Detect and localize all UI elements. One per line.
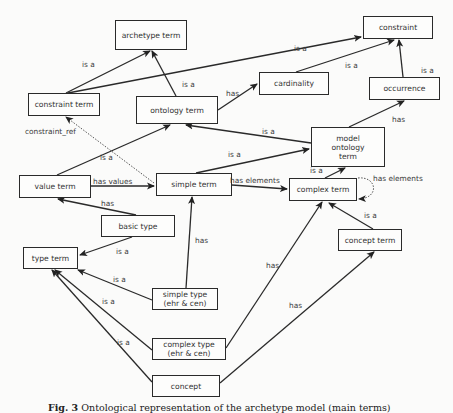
node-basic-type: basic type: [101, 215, 175, 237]
caption-label: Fig. 3: [48, 402, 78, 413]
edge-constraint-term-to-archetype-term: [66, 51, 150, 93]
node-complex-type: complex type (ehr & cen): [152, 338, 226, 360]
edge-label: is a: [102, 297, 115, 306]
edge-concept-to-type-term: [52, 270, 152, 382]
node-ontology-term: ontology term: [136, 96, 218, 124]
edge-simple-term-to-model-ontology-term: [196, 149, 309, 173]
node-value-term: value term: [19, 175, 91, 198]
edge-label: is a: [262, 127, 275, 136]
edge-label: has: [195, 236, 208, 245]
edge-label: has: [101, 199, 114, 208]
caption-text: Ontological representation of the archet…: [81, 402, 390, 413]
edge-occurrence-to-constraint: [399, 40, 403, 77]
edge-label: is a: [228, 150, 241, 159]
node-cardinality: cardinality: [259, 72, 329, 95]
edge-complex-term-to-model-ontology-term: [325, 168, 345, 178]
edge-label: is a: [310, 166, 323, 175]
edge-model-ontology-term-to-ontology-term: [186, 125, 311, 143]
edge-label: has elements: [373, 174, 423, 183]
node-occurrence: occurrence: [369, 77, 440, 100]
node-concept: concept: [152, 375, 220, 397]
node-constraint: constraint: [363, 16, 433, 39]
edge-label: is a: [116, 247, 129, 256]
figure-caption: Fig. 3 Ontological representation of the…: [48, 402, 390, 413]
edge-label: is a: [294, 44, 307, 53]
edge-label: is a: [345, 61, 358, 70]
edge-label: has: [266, 261, 279, 270]
edge-label: is a: [364, 211, 377, 220]
edge-label: is a: [100, 153, 113, 162]
edge-label: is a: [113, 275, 126, 284]
edge-label: is a: [117, 338, 130, 347]
diagram-canvas: [0, 0, 453, 413]
node-concept-term: concept term: [338, 229, 402, 251]
edge-simple-term-to-constraint-term: [66, 117, 154, 183]
edge-label: is a: [182, 80, 195, 89]
node-constraint-term: constraint term: [28, 93, 100, 116]
edge-simple-type-to-simple-term: [186, 197, 192, 288]
edge-label: is a: [421, 66, 434, 75]
edge-basic-type-to-value-term: [58, 199, 136, 215]
edge-label: has: [392, 115, 405, 124]
edge-label: has: [226, 89, 239, 98]
edge-complex-type-to-type-term: [55, 270, 152, 350]
node-archetype-term: archetype term: [115, 20, 187, 50]
edge-label: is a: [82, 60, 95, 69]
edge-label: has elements: [230, 176, 280, 185]
edge-label: has: [289, 301, 302, 310]
node-simple-term: simple term: [156, 173, 232, 196]
edge-simple-term-to-complex-term: [232, 185, 287, 189]
node-simple-type: simple type (ehr & cen): [152, 288, 218, 310]
node-complex-term: complex term: [289, 178, 357, 201]
edge-label: constraint_ref: [25, 127, 76, 136]
edge-concept-to-concept-term: [220, 252, 374, 383]
edge-label: has values: [93, 177, 132, 186]
node-type-term: type term: [23, 247, 78, 269]
node-model-ontology-term: model ontology term: [311, 127, 385, 167]
edge-complex-type-to-complex-term: [226, 202, 322, 348]
edge-complex-term-to-complex-term: [358, 178, 374, 199]
